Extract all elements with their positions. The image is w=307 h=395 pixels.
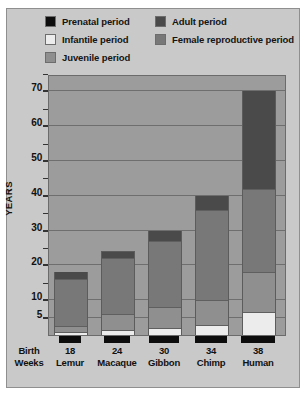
legend-item-female-reproductive: Female reproductive period — [155, 31, 297, 48]
bar-segment-gibbon-infantile-period — [149, 328, 181, 335]
legend-label-adult: Adult period — [172, 16, 227, 27]
bar-segment-lemur-adult-period — [55, 272, 87, 279]
bar-macaque — [101, 251, 135, 335]
x-axis-name-macaque: Macaque — [94, 357, 140, 369]
x-axis-weeks-lemur: 18 — [47, 345, 93, 357]
x-axis-weeks-macaque: 24 — [94, 345, 140, 357]
bar-segment-chimp-infantile-period — [196, 325, 228, 335]
y-axis: YEARS 510203040506070 — [7, 75, 48, 336]
bar-segment-lemur-infantile-period — [55, 332, 87, 335]
x-axis-group-human: 38Human — [235, 345, 281, 369]
y-tick-label-60: 60 — [31, 117, 42, 128]
birth-label: Birth — [9, 345, 49, 357]
bar-segment-lemur-female-reproductive-period — [55, 279, 87, 326]
bar-chimp — [195, 196, 229, 335]
x-axis-birth-weeks-label: Birth Weeks — [9, 345, 49, 369]
legend-item-juvenile: Juvenile period — [45, 49, 155, 66]
chart-legend: Prenatal period Infantile period Juvenil… — [7, 13, 301, 69]
legend-swatch-prenatal — [45, 16, 56, 27]
bar-segment-human-female-reproductive-period — [243, 189, 275, 273]
legend-item-prenatal: Prenatal period — [45, 13, 155, 30]
y-tick-label-70: 70 — [31, 82, 42, 93]
x-axis-group-lemur: 18Lemur — [47, 345, 93, 369]
bar-human — [242, 91, 276, 335]
prenatal-bars-row — [48, 336, 286, 344]
bar-gibbon — [148, 231, 182, 335]
x-axis-name-chimp: Chimp — [188, 357, 234, 369]
legend-swatch-adult — [155, 16, 166, 27]
y-tick-label-30: 30 — [31, 221, 42, 232]
legend-swatch-juvenile — [45, 52, 56, 63]
bar-segment-human-juvenile-period — [243, 272, 275, 312]
bar-segment-lemur-juvenile-period — [55, 326, 87, 331]
legend-label-infantile: Infantile period — [62, 34, 129, 45]
x-axis-name-human: Human — [235, 357, 281, 369]
x-axis-group-chimp: 34Chimp — [188, 345, 234, 369]
plot-area — [48, 75, 286, 336]
legend-item-adult: Adult period — [155, 13, 297, 30]
y-tick-label-40: 40 — [31, 186, 42, 197]
figure-panel: Prenatal period Infantile period Juvenil… — [6, 8, 300, 388]
x-axis-group-macaque: 24Macaque — [94, 345, 140, 369]
x-axis-weeks-chimp: 34 — [188, 345, 234, 357]
x-axis: Birth Weeks 18Lemur24Macaque30Gibbon34Ch… — [7, 345, 301, 379]
x-axis-weeks-gibbon: 30 — [141, 345, 187, 357]
bar-lemur — [54, 272, 88, 335]
prenatal-bar-chimp — [195, 336, 227, 343]
legend-column-right: Adult period Female reproductive period — [155, 13, 297, 49]
y-tick-label-10: 10 — [31, 291, 42, 302]
bar-segment-macaque-adult-period — [102, 252, 134, 259]
bar-segment-chimp-adult-period — [196, 196, 228, 210]
legend-label-juvenile: Juvenile period — [62, 52, 130, 63]
y-axis-title: YEARS — [3, 181, 14, 216]
prenatal-bar-lemur — [59, 336, 81, 343]
legend-label-prenatal: Prenatal period — [62, 16, 130, 27]
legend-swatch-female-reproductive — [155, 34, 166, 45]
prenatal-bar-human — [241, 336, 275, 343]
bar-segment-gibbon-adult-period — [149, 231, 181, 241]
legend-item-infantile: Infantile period — [45, 31, 155, 48]
plot-area-wrapper — [48, 75, 286, 336]
y-tick-label-50: 50 — [31, 152, 42, 163]
x-axis-name-gibbon: Gibbon — [141, 357, 187, 369]
x-axis-name-lemur: Lemur — [47, 357, 93, 369]
prenatal-bar-gibbon — [149, 336, 178, 343]
legend-swatch-infantile — [45, 34, 56, 45]
y-tick-label-5: 5 — [37, 308, 42, 319]
y-tick-label-20: 20 — [31, 256, 42, 267]
bar-segment-macaque-juvenile-period — [102, 314, 134, 330]
bar-segment-chimp-juvenile-period — [196, 300, 228, 324]
bar-segment-macaque-female-reproductive-period — [102, 258, 134, 314]
legend-label-female-reproductive: Female reproductive period — [172, 34, 294, 45]
bar-segment-macaque-infantile-period — [102, 330, 134, 335]
bar-segment-gibbon-female-reproductive-period — [149, 241, 181, 307]
bar-segment-gibbon-juvenile-period — [149, 307, 181, 328]
weeks-label: Weeks — [9, 357, 49, 369]
prenatal-bar-macaque — [104, 336, 130, 343]
x-axis-group-gibbon: 30Gibbon — [141, 345, 187, 369]
legend-column-left: Prenatal period Infantile period Juvenil… — [45, 13, 155, 67]
bar-segment-human-adult-period — [243, 91, 275, 188]
bar-segment-chimp-female-reproductive-period — [196, 210, 228, 300]
x-axis-weeks-human: 38 — [235, 345, 281, 357]
bar-segment-human-infantile-period — [243, 312, 275, 335]
